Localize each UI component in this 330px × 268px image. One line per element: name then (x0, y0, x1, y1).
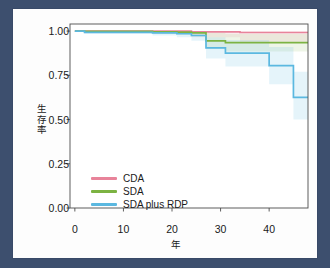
x-tick-label-0: 0 (60, 223, 90, 235)
x-axis-label: 年 (13, 237, 317, 251)
y-tick-label-0: 0.00 (29, 202, 69, 214)
chart-legend: CDASDASDA plus RDP (91, 172, 188, 211)
chart-card: 0.000.250.500.751.00 生 存 率 010203040 年 C… (13, 9, 317, 258)
x-axis-label-text: 年 (171, 239, 181, 250)
x-tick-label-2: 20 (157, 223, 187, 235)
legend-label: SDA plus RDP (123, 199, 188, 210)
legend-item-cda[interactable]: CDA (91, 172, 188, 185)
y-tick-label-3: 0.75 (29, 69, 69, 81)
x-tick-label-4: 40 (254, 223, 284, 235)
y-axis-label-char-0: 生 (35, 104, 49, 115)
y-tick-label-4: 1.00 (29, 25, 69, 37)
legend-swatch-icon (91, 190, 117, 192)
x-tick-label-3: 30 (206, 223, 236, 235)
legend-label: SDA (123, 186, 144, 197)
legend-swatch-icon (91, 177, 117, 179)
legend-item-sda[interactable]: SDA (91, 185, 188, 198)
y-axis-label: 生 存 率 (35, 104, 49, 136)
y-tick-label-1: 0.25 (29, 158, 69, 170)
legend-item-sda-plus-rdp[interactable]: SDA plus RDP (91, 198, 188, 211)
legend-label: CDA (123, 173, 144, 184)
legend-swatch-icon (91, 203, 117, 205)
x-tick-label-1: 10 (108, 223, 138, 235)
y-axis-label-char-2: 率 (35, 125, 49, 136)
